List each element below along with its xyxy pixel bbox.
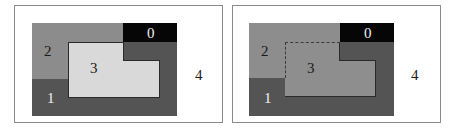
left-label-1: 1 [47, 91, 55, 106]
right-label-0: 0 [364, 26, 372, 41]
left-label-2: 2 [44, 44, 52, 59]
left-label-3: 3 [90, 61, 98, 76]
right-label-1: 1 [264, 91, 272, 106]
left-label-0: 0 [147, 26, 155, 41]
right-region-3-dashed-left [285, 42, 286, 78]
left-label-4: 4 [195, 68, 203, 83]
right-label-2: 2 [261, 44, 269, 59]
right-label-4: 4 [411, 68, 419, 83]
right-label-3: 3 [307, 61, 315, 76]
right-region-3-dashed-top [285, 42, 340, 43]
left-region-3-border-fix [123, 60, 159, 61]
right-region-3-edge [339, 42, 340, 61]
left-region-3-lower [68, 60, 160, 98]
right-region-3-lower [285, 60, 376, 97]
